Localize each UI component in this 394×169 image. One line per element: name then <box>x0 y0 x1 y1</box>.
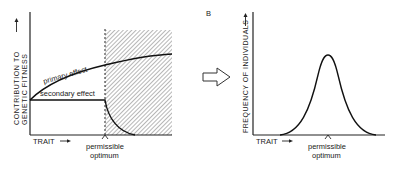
svg-text:GENETIC FITNESS: GENETIC FITNESS <box>21 53 28 125</box>
optimum-caret-b-icon <box>325 135 331 139</box>
panel-a: primary effect secondary effect CONTRIBU… <box>13 12 172 160</box>
optimum-label-a-1: permissible <box>86 142 124 151</box>
optimum-label-b-2: optimum <box>312 151 341 160</box>
svg-text:CONTRIBUTION TO: CONTRIBUTION TO <box>13 51 20 125</box>
y-label-b: FREQUENCY OF INDIVIDUALS <box>242 13 250 133</box>
x-axis-arrow-b-icon <box>282 139 293 143</box>
panel-b: B FREQUENCY OF INDIVIDUALS TRAIT permiss… <box>206 9 385 160</box>
optimum-label-a-2: optimum <box>90 151 119 160</box>
panel-letter-b: B <box>206 9 211 18</box>
hollow-right-arrow-icon <box>203 68 230 86</box>
x-label-b: TRAIT <box>256 137 278 146</box>
optimum-label-b-1: permissible <box>308 142 346 151</box>
diagram-canvas: primary effect secondary effect CONTRIBU… <box>0 0 394 169</box>
primary-effect-label: primary effect <box>42 65 89 86</box>
x-axis-arrow-a-icon <box>60 139 71 143</box>
x-label-a: TRAIT <box>33 137 55 146</box>
optimum-caret-a-icon <box>102 135 108 139</box>
svg-text:FREQUENCY OF INDIVIDUALS: FREQUENCY OF INDIVIDUALS <box>242 20 250 133</box>
y-label-a: CONTRIBUTION TO GENETIC FITNESS <box>13 18 28 125</box>
frequency-bell-curve <box>280 55 376 135</box>
secondary-effect-label: secondary effect <box>40 89 96 98</box>
excluded-region-hatch <box>105 30 172 135</box>
